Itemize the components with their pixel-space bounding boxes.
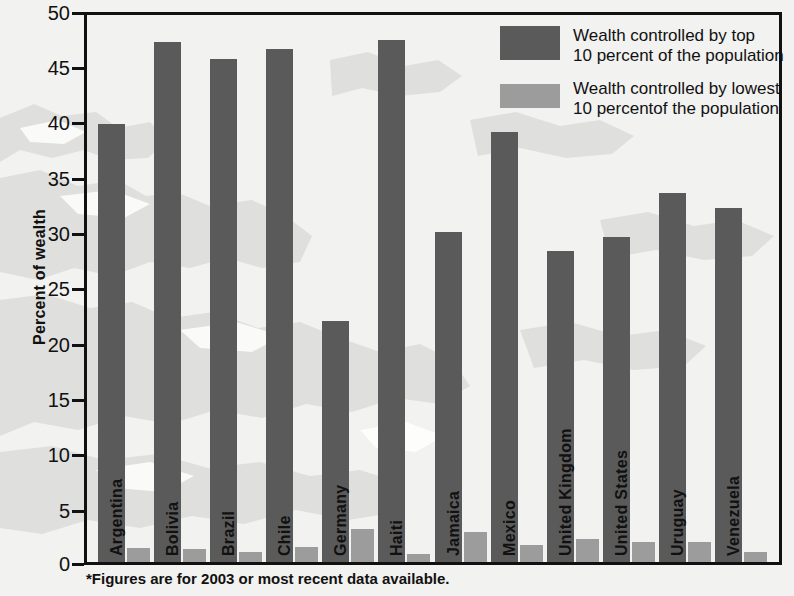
y-tick-label-35: 35 xyxy=(24,168,70,191)
bar-top-ten-percent xyxy=(266,49,293,562)
bar-category-label: Jamaica xyxy=(445,491,463,556)
y-tick-label-5: 5 xyxy=(24,500,70,523)
legend-label-low: Wealth controlled by lowest 10 percentof… xyxy=(573,79,780,118)
bar-lowest-ten-percent xyxy=(744,552,767,562)
legend-entry-top: Wealth controlled by top 10 percent of t… xyxy=(500,26,784,65)
bar-lowest-ten-percent xyxy=(351,529,374,562)
y-tick-mark-35 xyxy=(72,178,84,181)
bar-group: Germany xyxy=(322,15,378,562)
legend-label-low-line1: Wealth controlled by lowest xyxy=(573,79,780,99)
y-tick-label-50: 50 xyxy=(24,2,70,25)
bar-top-ten-percent xyxy=(378,40,405,562)
y-tick-label-40: 40 xyxy=(24,112,70,135)
legend-label-top-line2: 10 percent of the population xyxy=(573,46,784,66)
legend-swatch-low-icon xyxy=(500,84,560,108)
bar-category-label: Venezuela xyxy=(725,476,743,556)
bar-category-label: Brazil xyxy=(220,511,238,556)
y-tick-mark-45 xyxy=(72,67,84,70)
bar-lowest-ten-percent xyxy=(688,542,711,562)
bar-lowest-ten-percent xyxy=(464,532,487,562)
y-tick-mark-40 xyxy=(72,122,84,125)
legend-label-low-line2: 10 percentof the population xyxy=(573,99,780,119)
y-tick-mark-20 xyxy=(72,344,84,347)
chart-container: Percent of wealth 50 45 40 35 30 25 20 1… xyxy=(0,0,794,596)
y-tick-mark-15 xyxy=(72,399,84,402)
bar-lowest-ten-percent xyxy=(295,547,318,562)
y-tick-mark-10 xyxy=(72,454,84,457)
bar-top-ten-percent xyxy=(210,59,237,562)
bar-group: Jamaica xyxy=(435,15,491,562)
bar-lowest-ten-percent xyxy=(239,552,262,562)
bar-lowest-ten-percent xyxy=(127,548,150,562)
y-tick-label-30: 30 xyxy=(24,223,70,246)
bar-lowest-ten-percent xyxy=(407,554,430,562)
y-tick-mark-0 xyxy=(72,563,84,566)
chart-footnote: *Figures are for 2003 or most recent dat… xyxy=(86,570,450,587)
bar-lowest-ten-percent xyxy=(632,542,655,562)
bar-category-label: Argentina xyxy=(108,479,126,556)
legend-entry-low: Wealth controlled by lowest 10 percentof… xyxy=(500,79,784,118)
bar-category-label: Uruguay xyxy=(669,489,687,556)
bar-category-label: Bolivia xyxy=(164,501,182,556)
bar-category-label: Germany xyxy=(332,485,350,556)
bar-top-ten-percent xyxy=(491,132,518,562)
bar-category-label: United Kingdom xyxy=(557,428,575,556)
legend-swatch-top-icon xyxy=(500,26,560,60)
y-tick-mark-50 xyxy=(72,12,84,15)
bar-group: Bolivia xyxy=(154,15,210,562)
bar-category-label: Mexico xyxy=(501,500,519,556)
y-tick-label-15: 15 xyxy=(24,389,70,412)
bar-lowest-ten-percent xyxy=(183,549,206,562)
y-tick-mark-25 xyxy=(72,288,84,291)
bar-lowest-ten-percent xyxy=(520,545,543,563)
bar-lowest-ten-percent xyxy=(576,539,599,562)
legend-label-top: Wealth controlled by top 10 percent of t… xyxy=(573,26,784,65)
bar-top-ten-percent xyxy=(154,42,181,562)
bar-group: Haiti xyxy=(378,15,434,562)
y-tick-label-0: 0 xyxy=(24,553,70,576)
bar-category-label: Chile xyxy=(276,515,294,556)
y-tick-mark-30 xyxy=(72,233,84,236)
y-tick-mark-5 xyxy=(72,510,84,513)
bar-group: Argentina xyxy=(98,15,154,562)
bar-category-label: Haiti xyxy=(388,520,406,556)
y-tick-label-45: 45 xyxy=(24,57,70,80)
legend-label-top-line1: Wealth controlled by top xyxy=(573,26,784,46)
bar-group: Brazil xyxy=(210,15,266,562)
y-tick-label-20: 20 xyxy=(24,334,70,357)
bar-category-label: United States xyxy=(613,450,631,556)
chart-legend: Wealth controlled by top 10 percent of t… xyxy=(500,26,784,133)
y-tick-label-25: 25 xyxy=(24,278,70,301)
y-tick-label-10: 10 xyxy=(24,444,70,467)
bar-group: Chile xyxy=(266,15,322,562)
